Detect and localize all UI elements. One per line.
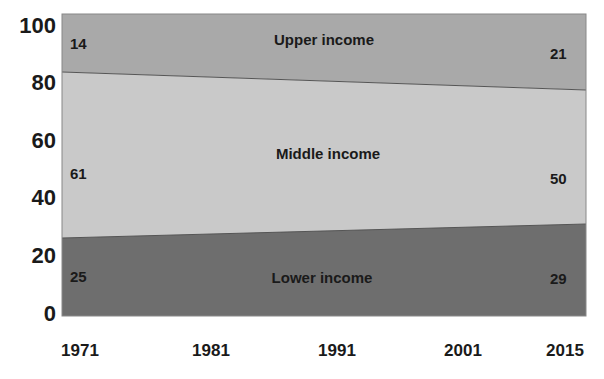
x-tick-2015: 2015: [525, 341, 604, 361]
y-tick-60: 60: [32, 130, 56, 152]
lower-income-label: Lower income: [272, 269, 373, 286]
y-tick-0: 0: [44, 303, 56, 325]
x-tick-1971: 1971: [40, 341, 120, 361]
y-tick-40: 40: [32, 187, 56, 209]
x-tick-1981: 1981: [171, 341, 251, 361]
x-tick-1991: 1991: [297, 341, 377, 361]
y-tick-20: 20: [32, 245, 56, 267]
upper-end-value: 21: [550, 45, 567, 62]
y-tick-80: 80: [32, 72, 56, 94]
upper-income-label: Upper income: [274, 31, 374, 48]
area-chart-plot: [0, 0, 604, 379]
middle-end-value: 50: [550, 170, 567, 187]
lower-start-value: 25: [70, 268, 87, 285]
lower-end-value: 29: [550, 270, 567, 287]
y-tick-100: 100: [19, 15, 56, 37]
middle-start-value: 61: [70, 165, 87, 182]
middle-income-label: Middle income: [276, 145, 380, 162]
x-tick-2001: 2001: [423, 341, 503, 361]
upper-start-value: 14: [70, 35, 87, 52]
